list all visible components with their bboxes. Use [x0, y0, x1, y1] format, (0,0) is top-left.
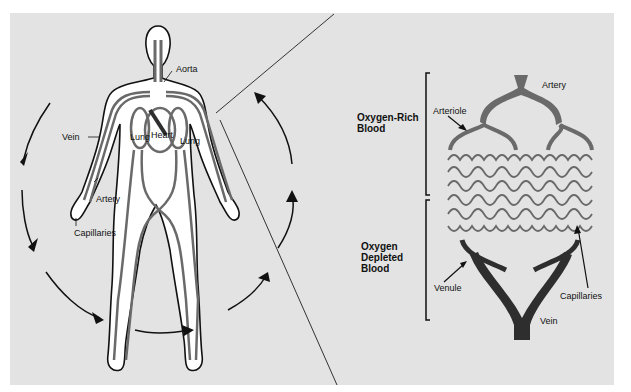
label-venule: Venule: [434, 283, 462, 293]
label-capillaries: Capillaries: [74, 228, 116, 238]
label-lung-right: Lung: [180, 136, 200, 146]
label-capillaries-detail: Capillaries: [560, 291, 602, 301]
label-oxygen-depleted-blood: Oxygen Depleted Blood: [361, 241, 403, 274]
label-artery-detail: Artery: [542, 80, 566, 90]
callout-line-bottom: [220, 120, 337, 385]
label-lung-left: Lung: [130, 132, 150, 142]
callout-line-top: [216, 14, 334, 113]
label-vein: Vein: [62, 132, 80, 142]
label-arteriole: Arteriole: [433, 106, 467, 116]
label-vein-detail: Vein: [540, 316, 558, 326]
label-oxygen-rich-blood: Oxygen-Rich Blood: [357, 112, 419, 134]
label-artery: Artery: [96, 194, 120, 204]
circulation-illustration: [0, 0, 631, 392]
brackets: [426, 73, 430, 320]
label-aorta: Aorta: [176, 64, 198, 74]
label-heart: Heart: [151, 130, 173, 140]
